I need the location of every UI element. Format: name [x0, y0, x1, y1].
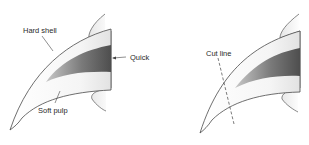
claw-diagram: Hard shell Quick Soft pulp Cut line	[0, 0, 309, 145]
label-cut-line: Cut line	[206, 50, 231, 58]
label-hard-shell: Hard shell	[23, 27, 57, 35]
label-quick: Quick	[130, 54, 149, 62]
hard-shell-leader	[42, 36, 53, 51]
hard-shell-right	[200, 31, 300, 133]
quick-arrow-icon	[112, 57, 116, 60]
label-soft-pulp: Soft pulp	[38, 107, 68, 115]
cutting-panel	[200, 14, 300, 133]
